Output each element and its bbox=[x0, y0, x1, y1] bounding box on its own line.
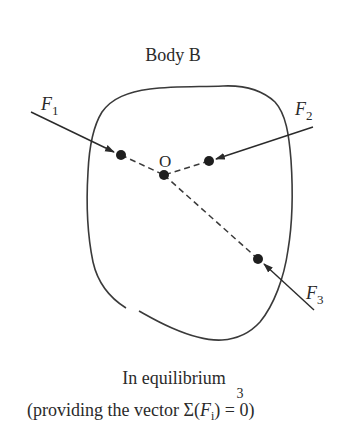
f1-label: F1 bbox=[40, 94, 59, 118]
f2-label-sub: 2 bbox=[306, 108, 313, 123]
f3-line-of-action bbox=[164, 175, 258, 259]
f3-label-sub: 3 bbox=[317, 292, 324, 307]
f1-arrow bbox=[31, 112, 114, 152]
diagram-title: Body B bbox=[145, 45, 201, 65]
f1-line-of-action bbox=[121, 155, 164, 175]
point-o-label: O bbox=[159, 152, 171, 171]
caption-line2: (providing the vector Σ(Fi) = 0) bbox=[27, 400, 254, 423]
sum-close: ) = 0) bbox=[214, 400, 254, 421]
sum-symbol: Σ bbox=[183, 400, 193, 420]
f2-label: F2 bbox=[294, 99, 313, 123]
f3-application-point bbox=[253, 254, 263, 264]
f1-label-sub: 1 bbox=[52, 103, 59, 118]
f2-application-point bbox=[204, 156, 214, 166]
f2-arrow bbox=[216, 127, 313, 159]
point-o bbox=[159, 170, 169, 180]
caption-line1: In equilibrium bbox=[122, 368, 225, 388]
equilibrium-diagram: Body B O F1 F2 F3 In equilibrium 3 (prov… bbox=[0, 0, 355, 427]
body-outline bbox=[87, 86, 292, 340]
f1-application-point bbox=[116, 150, 126, 160]
caption-line2-prefix: (providing the vector bbox=[27, 400, 183, 421]
sum-upper-limit: 3 bbox=[237, 386, 244, 401]
